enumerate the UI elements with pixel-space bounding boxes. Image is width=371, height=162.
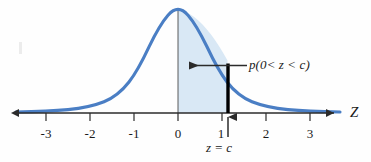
tick-label-0: 0 (165, 127, 191, 140)
tick-label--1: -1 (121, 127, 147, 140)
shaded-area-region (178, 10, 228, 113)
tick-label-1: 1 (208, 127, 234, 140)
probability-label: p(0< z < c) (249, 58, 310, 71)
tick-label--3: -3 (33, 127, 59, 140)
tick-label--2: -2 (77, 127, 103, 140)
axis-ticks (46, 113, 310, 121)
z-axis-label: Z (350, 105, 358, 120)
critical-value-label: z = c (206, 141, 232, 154)
normal-distribution-figure: -3 -2 -1 0 1 2 3 p(0< z < c) z = c Z (0, 0, 371, 162)
tick-label-2: 2 (253, 127, 279, 140)
tick-label-3: 3 (297, 127, 323, 140)
